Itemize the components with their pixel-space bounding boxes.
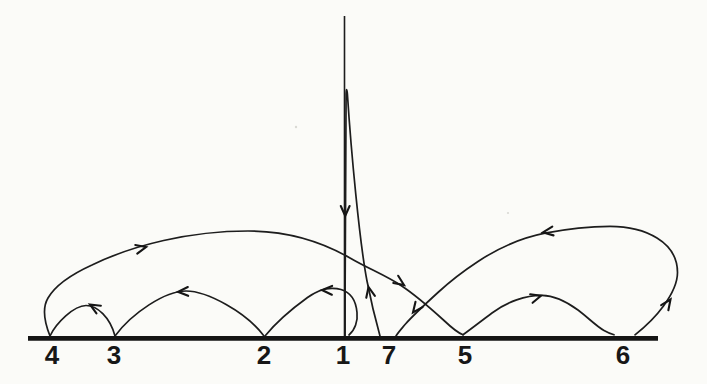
cycle-trajectory-diagram: 4 3 2 1 7 5 6 [0, 0, 707, 384]
point-label-3: 3 [107, 340, 121, 370]
point-label-7: 7 [382, 340, 396, 370]
scan-speck [507, 212, 509, 214]
scan-speck [295, 126, 297, 128]
arc-5-to-6 [463, 295, 614, 334]
arc-3-to-4 [50, 306, 115, 337]
arc-2-to-3 [115, 291, 264, 336]
point-label-4: 4 [45, 340, 60, 370]
arc-1-to-2 [265, 288, 357, 336]
arc-7-to-1-spike [345, 90, 380, 336]
point-label-2: 2 [257, 340, 271, 370]
point-label-5: 5 [458, 340, 472, 370]
arrow-5-to-6 [530, 292, 542, 303]
arrow-1-to-2 [322, 286, 332, 295]
figure-page: 4 3 2 1 7 5 6 [0, 0, 707, 384]
point-label-1: 1 [336, 340, 350, 370]
point-label-6: 6 [616, 340, 630, 370]
arc-6-to-7 [396, 226, 678, 336]
